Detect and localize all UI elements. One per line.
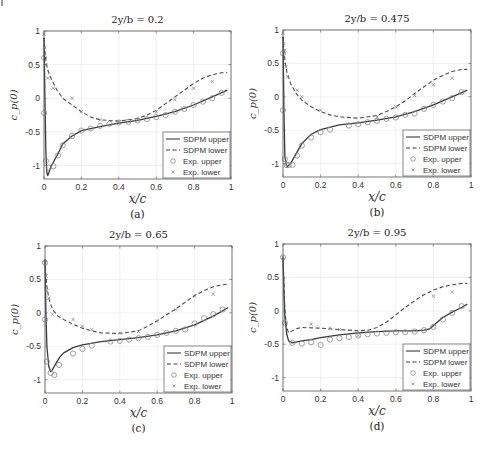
legend-entry-label: SDPM lower (184, 360, 229, 369)
legend-entry-label: Exp. upper (183, 157, 222, 166)
y-tick-label: 0 (35, 93, 40, 103)
subplot-title: 2y/b = 0.475 (344, 13, 409, 24)
y-tick-label: 1 (274, 25, 279, 35)
x-tick-label: 0.6 (151, 396, 163, 406)
x-tick-label: 0.6 (390, 394, 402, 404)
exp-upper-marker (108, 339, 113, 344)
subplot-d: 00.20.40.60.81-1-0.500.512y/b = 0.95x/cc… (247, 227, 474, 432)
subplot-caption: (a) (130, 208, 144, 220)
legend-entry-label: SDPM lower (423, 144, 468, 153)
x-tick-label: 1 (230, 396, 235, 406)
legend-entry-label: Exp. upper (423, 155, 462, 164)
x-tick-label: 0.6 (150, 182, 162, 192)
legend: SDPM upperSDPM lowerExp. upperExp. lower (403, 130, 470, 176)
x-tick-label: 0.8 (188, 182, 200, 192)
exp-upper-marker (299, 341, 304, 346)
x-tick-label: 0 (281, 180, 286, 190)
x-tick-label: 0.8 (427, 394, 439, 404)
subplot-caption: (b) (370, 206, 385, 218)
exp-lower-marker (211, 80, 214, 83)
exp-upper-marker (337, 336, 342, 341)
x-axis-label: x/c (130, 406, 148, 420)
y-axis-label: c_p(0) (247, 88, 259, 119)
y-tick-label: -0.5 (264, 125, 279, 135)
x-tick-label: 1 (469, 394, 474, 404)
sdpm-upper-line (283, 257, 467, 343)
y-tick-label: 0 (274, 306, 279, 316)
legend-entry-label: SDPM upper (423, 133, 469, 142)
subplot-a: 00.20.40.60.81-1-0.500.512y/b = 0.2x/cc_… (8, 14, 234, 220)
figure: 00.20.40.60.81-1-0.500.512y/b = 0.2x/cc_… (0, 0, 484, 452)
sdpm-lower-line (44, 38, 227, 121)
x-tick-label: 0.4 (114, 396, 126, 406)
x-axis-label: x/c (129, 192, 147, 206)
legend: SDPM upperSDPM lowerExp. upperExp. lower (163, 132, 230, 178)
legend-entry-label: Exp. lower (183, 168, 221, 177)
x-tick-label: 0 (43, 396, 48, 406)
y-axis-label: c_p(0) (8, 89, 20, 120)
subplot-title: 2y/b = 0.95 (348, 227, 407, 238)
x-tick-label: 1 (229, 182, 234, 192)
subplot-title: 2y/b = 0.65 (109, 229, 168, 240)
y-axis-label: c_p(0) (9, 304, 21, 335)
y-tick-label: -1 (271, 159, 279, 169)
subplot-title: 2y/b = 0.2 (111, 14, 163, 25)
x-axis-label: x/c (368, 404, 386, 418)
legend-entry-label: SDPM lower (183, 146, 228, 155)
x-tick-label: 0.2 (315, 394, 327, 404)
y-tick-label: 0 (36, 308, 41, 318)
y-tick-label: -0.5 (264, 339, 279, 349)
exp-lower-marker (310, 323, 313, 326)
x-axis-label: x/c (368, 190, 386, 204)
subplot-b: 00.20.40.60.81-1-0.500.512y/b = 0.475x/c… (247, 13, 474, 218)
exp-upper-marker (309, 135, 314, 140)
legend: SDPM upperSDPM lowerExp. upperExp. lower (164, 346, 231, 392)
exp-upper-marker (346, 334, 351, 339)
x-tick-label: 0.4 (352, 180, 364, 190)
y-tick-label: -1 (32, 161, 40, 171)
y-tick-label: 0.5 (28, 60, 40, 70)
x-tick-label: 0 (42, 182, 47, 192)
subplot-caption: (d) (370, 420, 385, 432)
exp-upper-marker (107, 121, 112, 126)
x-tick-label: 0.8 (189, 396, 201, 406)
legend-entry-label: SDPM upper (184, 349, 230, 358)
exp-upper-marker (327, 337, 332, 342)
exp-lower-marker (212, 293, 215, 296)
exp-lower-marker (451, 291, 454, 294)
y-tick-label: 0.5 (267, 58, 279, 68)
x-tick-label: 0.2 (76, 396, 88, 406)
x-tick-label: 0.2 (75, 182, 87, 192)
x-tick-label: 0.4 (352, 394, 364, 404)
y-tick-label: 1 (35, 26, 40, 36)
x-tick-label: 0.6 (390, 180, 402, 190)
exp-upper-marker (56, 362, 61, 367)
legend-entry-label: SDPM upper (423, 347, 469, 356)
exp-upper-marker (290, 162, 295, 167)
exp-upper-marker (127, 337, 132, 342)
exp-lower-marker (52, 87, 55, 90)
y-tick-label: 0.5 (29, 274, 41, 284)
subplot-c: 00.20.40.60.81-1-0.500.512y/b = 0.65x/cc… (9, 229, 235, 434)
legend-entry-label: Exp. upper (184, 371, 223, 380)
x-tick-label: 1 (469, 180, 474, 190)
legend: SDPM upperSDPM lowerExp. upperExp. lower (403, 344, 470, 390)
y-tick-label: 0 (274, 92, 279, 102)
legend-entry-label: Exp. upper (423, 369, 462, 378)
exp-lower-marker (46, 76, 49, 79)
y-tick-label: 1 (36, 241, 41, 251)
sdpm-lower-line (283, 37, 467, 119)
exp-lower-marker (71, 318, 74, 321)
y-tick-label: -1 (271, 373, 279, 383)
exp-lower-marker (296, 89, 299, 92)
subplot-caption: (c) (131, 422, 145, 434)
y-tick-label: 0.5 (267, 272, 279, 282)
x-tick-label: 0.4 (113, 182, 125, 192)
y-tick-label: -0.5 (26, 341, 41, 351)
legend-entry-label: Exp. lower (184, 382, 222, 391)
legend-entry-label: Exp. lower (423, 380, 461, 389)
x-tick-label: 0.8 (427, 180, 439, 190)
exp-upper-marker (70, 351, 75, 356)
y-tick-label: 1 (274, 239, 279, 249)
exp-lower-marker (90, 328, 93, 331)
